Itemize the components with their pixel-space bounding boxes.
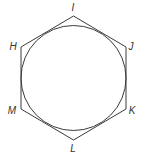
vertex-label-k: K <box>129 105 137 116</box>
geometry-diagram: I J K L M H <box>0 0 147 156</box>
inscribed-circle <box>21 26 126 131</box>
hexagon-hijklm <box>21 16 126 140</box>
vertex-label-l: L <box>70 143 76 154</box>
vertex-label-i: I <box>72 2 75 13</box>
vertex-label-m: M <box>8 105 17 116</box>
vertex-label-h: H <box>9 41 17 52</box>
hexagon-circle-figure: I J K L M H <box>0 0 147 156</box>
vertex-label-j: J <box>128 41 135 52</box>
